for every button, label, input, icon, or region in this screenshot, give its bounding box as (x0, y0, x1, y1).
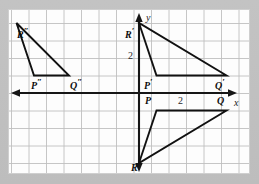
vertex-label-q-prime: Q′ (215, 78, 224, 91)
triangle-pqr (139, 111, 227, 164)
vertex-label-p: P (145, 96, 151, 106)
axis-label-x: x (234, 98, 238, 108)
vertex-label-r: R (131, 163, 138, 173)
vertex-label-r-prime: R′ (125, 27, 134, 40)
x-axis-arrow-right (228, 89, 237, 96)
geometry-figure: R″ P″ Q″ R′ P′ Q′ P Q R 2 2 y x (0, 0, 259, 184)
measure-label-vertical-2: 2 (128, 51, 133, 61)
axis-label-y: y (146, 13, 150, 23)
x-axis-arrow-left (11, 89, 20, 96)
y-axis-arrow-up (135, 13, 142, 22)
vertex-label-p-double-prime: P″ (31, 78, 42, 91)
vertex-label-p-prime: P′ (144, 78, 152, 91)
triangle-p1q1r1 (139, 23, 227, 76)
axis-x (11, 89, 237, 96)
vertex-label-r-double-prime: R″ (17, 27, 28, 40)
vertex-label-q-double-prime: Q″ (70, 78, 82, 91)
measure-label-horizontal-2: 2 (178, 96, 183, 106)
vertex-label-q: Q (217, 96, 224, 106)
